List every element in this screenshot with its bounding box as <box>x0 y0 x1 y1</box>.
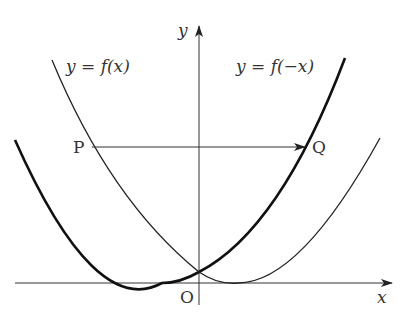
diagram-canvas <box>0 0 405 319</box>
y-axis-label: y <box>178 20 188 40</box>
point-q-label: Q <box>312 137 326 157</box>
curve-f-label: y = f(x) <box>66 56 130 76</box>
curve-fneg-label: y = f(−x) <box>236 56 314 76</box>
origin-label: O <box>180 287 194 307</box>
point-p-label: P <box>73 137 84 157</box>
x-axis-label: x <box>377 287 387 307</box>
